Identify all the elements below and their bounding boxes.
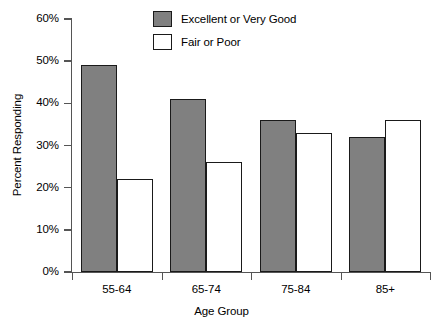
x-axis-tick-label-75-84: 75-84 bbox=[256, 283, 336, 295]
bar-65-74-series-0 bbox=[170, 99, 206, 272]
legend-swatch-icon-fair-or-poor bbox=[153, 34, 172, 50]
chart-legend: Excellent or Very Good Fair or Poor bbox=[153, 11, 296, 50]
x-axis-tick bbox=[251, 273, 252, 280]
x-axis-tick bbox=[430, 273, 431, 280]
bar-85--series-0 bbox=[349, 137, 385, 272]
y-axis-tick-label: 0% bbox=[0, 266, 59, 278]
legend-item-excellent-or-very-good: Excellent or Very Good bbox=[153, 11, 296, 27]
y-axis-tick bbox=[64, 18, 72, 19]
y-axis-tick-label: 40% bbox=[0, 97, 59, 109]
y-axis-tick bbox=[64, 229, 72, 230]
bar-55-64-series-0 bbox=[81, 65, 117, 272]
y-axis-tick bbox=[64, 187, 72, 188]
y-axis-tick-label: 20% bbox=[0, 182, 59, 194]
y-axis-tick-label: 10% bbox=[0, 224, 59, 236]
bar-55-64-series-1 bbox=[117, 179, 153, 272]
legend-label-excellent-or-very-good: Excellent or Very Good bbox=[181, 13, 296, 25]
x-axis-tick-label-85-: 85+ bbox=[345, 283, 425, 295]
y-axis-title: Percent Responding bbox=[11, 65, 23, 225]
bar-75-84-series-1 bbox=[296, 133, 332, 272]
y-axis-tick-label: 50% bbox=[0, 55, 59, 67]
legend-item-fair-or-poor: Fair or Poor bbox=[153, 34, 296, 50]
bar-65-74-series-1 bbox=[206, 162, 242, 272]
x-axis-tick bbox=[162, 273, 163, 280]
y-axis-tick-label: 30% bbox=[0, 140, 59, 152]
y-axis-tick bbox=[64, 145, 72, 146]
bar-chart: Excellent or Very Good Fair or Poor 0%10… bbox=[0, 0, 443, 328]
x-axis-tick bbox=[341, 273, 342, 280]
y-axis-tick bbox=[64, 271, 72, 272]
y-axis-tick-label: 60% bbox=[0, 13, 59, 25]
legend-label-fair-or-poor: Fair or Poor bbox=[181, 36, 241, 48]
legend-swatch-icon-excellent-or-very-good bbox=[153, 11, 172, 27]
x-axis-tick bbox=[72, 273, 73, 280]
bar-75-84-series-0 bbox=[260, 120, 296, 272]
x-axis-title: Age Group bbox=[0, 305, 443, 317]
y-axis-tick bbox=[64, 60, 72, 61]
y-axis-tick bbox=[64, 103, 72, 104]
x-axis-tick-label-65-74: 65-74 bbox=[166, 283, 246, 295]
bar-85--series-1 bbox=[385, 120, 421, 272]
x-axis-tick-label-55-64: 55-64 bbox=[77, 283, 157, 295]
